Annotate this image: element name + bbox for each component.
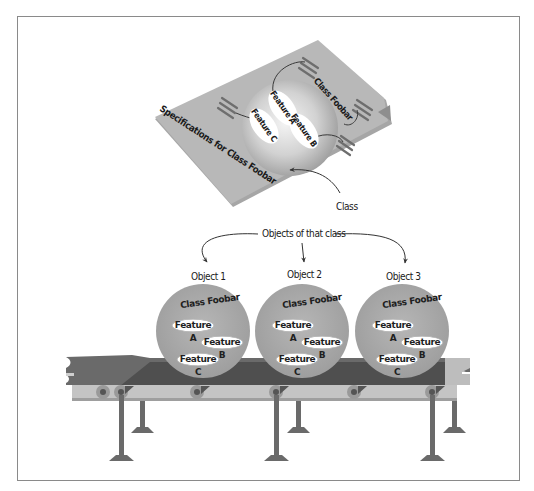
object-2-feature-a: Feature A — [272, 319, 314, 332]
objects-callout-label: Objects of that class — [262, 229, 345, 239]
diagram-canvas — [0, 0, 534, 491]
object-1-feature-b: Feature B — [201, 336, 243, 349]
object-2-label: Object 2 — [287, 270, 322, 280]
object-1-feature-a: Feature A — [172, 319, 214, 332]
object-3-label: Object 3 — [386, 272, 421, 282]
object-3-feature-b: Feature B — [401, 336, 443, 349]
object-2-feature-c: Feature C — [276, 353, 318, 366]
class-callout-label: Class — [336, 202, 358, 212]
object-3-feature-c: Feature C — [376, 353, 418, 366]
object-1-label: Object 1 — [191, 272, 226, 282]
object-3-feature-a: Feature A — [372, 319, 414, 332]
object-2-feature-b: Feature B — [301, 336, 343, 349]
object-1-feature-c: Feature C — [177, 353, 219, 366]
